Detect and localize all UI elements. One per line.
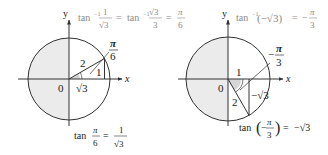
right-adjacent-label: 1: [236, 66, 242, 78]
svg-text:√3: √3: [99, 20, 109, 30]
svg-text:π: π: [310, 7, 315, 17]
left-hypotenuse-label: 2: [80, 57, 86, 69]
svg-text:=: =: [283, 122, 289, 133]
left-diagram: y x 0 2 1 √3 π 6 tan −1 1 √3 = tan −1 √3…: [18, 7, 185, 149]
svg-text:√3: √3: [114, 139, 124, 149]
left-y-label: y: [63, 8, 68, 19]
svg-text:=: =: [103, 130, 109, 141]
left-angle-arc: [80, 73, 82, 80]
svg-text:tan: tan: [74, 130, 86, 141]
svg-text:π: π: [178, 7, 183, 17]
left-top-equation: tan −1 1 √3 = tan −1 √3 3 = π 6: [78, 7, 185, 30]
left-bottom-equation: tan π 6 = 1 √3: [74, 125, 127, 149]
left-angle-label-num: π: [110, 37, 117, 49]
svg-text:1: 1: [119, 125, 124, 135]
right-origin-label: 0: [218, 82, 224, 94]
right-hypotenuse-label: 2: [232, 96, 238, 108]
svg-text:π: π: [93, 125, 98, 135]
svg-text:6: 6: [93, 138, 98, 148]
svg-text:=: =: [292, 12, 298, 23]
right-top-equation: tan −1 (−√3) = − π 3: [236, 7, 317, 30]
svg-text:3: 3: [267, 130, 272, 140]
left-angle-label-den: 6: [110, 50, 116, 62]
svg-text:): ): [275, 119, 280, 137]
right-y-label: y: [222, 8, 227, 19]
left-x-label: x: [124, 73, 130, 84]
right-angle-label-sign: −: [268, 48, 274, 60]
right-angle-label-den: 3: [276, 56, 282, 68]
svg-text:=: =: [116, 12, 122, 23]
svg-text:3: 3: [310, 20, 315, 30]
inverse-tangent-diagram: y x 0 2 1 √3 π 6 tan −1 1 √3 = tan −1 √3…: [0, 0, 328, 155]
left-origin-label: 0: [58, 82, 64, 94]
svg-text:tan: tan: [78, 12, 90, 23]
svg-text:−1: −1: [94, 11, 100, 17]
svg-text:π: π: [267, 117, 272, 127]
right-bottom-equation: tan ( − π 3 ) = −√3: [239, 117, 310, 140]
right-diagram: y x 0 1 2 −√3 − π 3 tan −1 (−√3) = − π 3…: [178, 7, 317, 140]
svg-text:tan: tan: [239, 122, 251, 133]
right-angle-pointer: [240, 63, 270, 90]
svg-text:√3: √3: [149, 7, 159, 17]
svg-text:tan: tan: [236, 12, 248, 23]
svg-text:3: 3: [153, 20, 158, 30]
right-angle-label-num: π: [276, 42, 283, 54]
right-x-label: x: [285, 73, 291, 84]
svg-text:−: −: [302, 12, 308, 23]
svg-text:=: =: [166, 12, 172, 23]
svg-text:tan: tan: [127, 12, 139, 23]
right-angle-wedge: [228, 79, 241, 90]
svg-text:−√3: −√3: [294, 122, 310, 133]
left-opposite-label: 1: [96, 66, 102, 78]
svg-text:1: 1: [103, 7, 108, 17]
right-opposite-label: −√3: [251, 89, 269, 101]
left-adjacent-label: √3: [76, 82, 88, 94]
svg-text:6: 6: [178, 20, 183, 30]
svg-text:(−√3): (−√3): [257, 12, 282, 25]
